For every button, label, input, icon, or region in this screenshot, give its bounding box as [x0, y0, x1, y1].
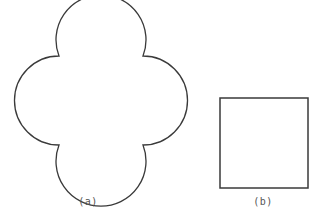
four-lobed-shape — [14, 0, 187, 206]
diagram-canvas — [0, 0, 326, 222]
figure-b-label: (b) — [253, 196, 273, 207]
figure-a-label: (a) — [78, 196, 98, 207]
square-shape — [220, 98, 308, 188]
